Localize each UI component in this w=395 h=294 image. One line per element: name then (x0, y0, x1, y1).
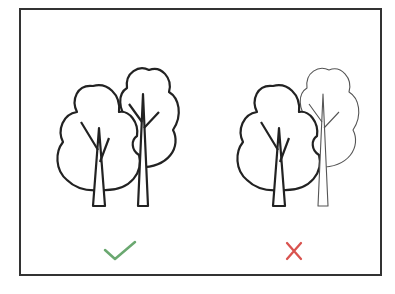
cross-icon (274, 236, 314, 266)
checkmark-icon (101, 236, 141, 266)
trees-illustration-inconsistent (201, 10, 381, 240)
figure-frame: Two overlapping trees drawn with consist… (19, 8, 382, 276)
panel-correct (21, 10, 201, 274)
panel-incorrect (201, 10, 381, 274)
trees-illustration-consistent (21, 10, 201, 240)
